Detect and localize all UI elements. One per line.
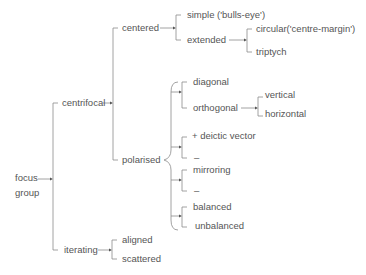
node-scattered: scattered	[122, 253, 161, 264]
node-iterating: iterating	[64, 244, 98, 255]
node-dash-1: –	[194, 152, 199, 163]
node-mirroring: mirroring	[193, 164, 230, 175]
node-centered: centered	[122, 22, 159, 33]
node-horizontal: horizontal	[265, 108, 306, 119]
node-balanced: balanced	[193, 201, 232, 212]
node-vertical: vertical	[265, 89, 295, 100]
node-focus-group-line2: group	[15, 187, 39, 198]
node-aligned: aligned	[122, 234, 153, 245]
node-orthogonal: orthogonal	[193, 102, 238, 113]
node-deictic-vector: + deictic vector	[192, 130, 256, 141]
node-extended: extended	[187, 34, 226, 45]
node-polarised: polarised	[122, 154, 161, 165]
focus-group-taxonomy-diagram: focus group centrifocal iterating center…	[0, 0, 366, 275]
node-simple-bulls-eye: simple ('bulls-eye')	[187, 9, 265, 20]
node-dash-2: –	[194, 185, 199, 196]
node-focus-group-line1: focus	[15, 172, 38, 183]
connector-lines	[0, 0, 366, 275]
node-centrifocal: centrifocal	[62, 97, 105, 108]
node-triptych: triptych	[256, 46, 287, 57]
node-diagonal: diagonal	[193, 76, 229, 87]
node-circular-centre-margin: circular('centre-margin')	[256, 23, 355, 34]
node-unbalanced: unbalanced	[195, 220, 244, 231]
